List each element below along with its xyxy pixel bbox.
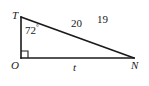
- vertex-label-n: N: [131, 60, 138, 71]
- annotation-label-19: 19: [97, 14, 108, 25]
- side-label-hypotenuse: 20: [71, 18, 82, 29]
- angle-label-72-degrees: 72°: [25, 24, 39, 36]
- angle-value: 72: [25, 24, 36, 36]
- side-label-base: t: [73, 62, 76, 73]
- degree-symbol-icon: °: [36, 23, 39, 31]
- triangle-shape: [0, 0, 149, 86]
- vertex-label-o: O: [11, 60, 19, 71]
- right-angle-marker-icon: [21, 51, 28, 58]
- vertex-label-t: T: [12, 10, 18, 21]
- triangle-figure: T O N 72° 20 19 t: [0, 0, 149, 86]
